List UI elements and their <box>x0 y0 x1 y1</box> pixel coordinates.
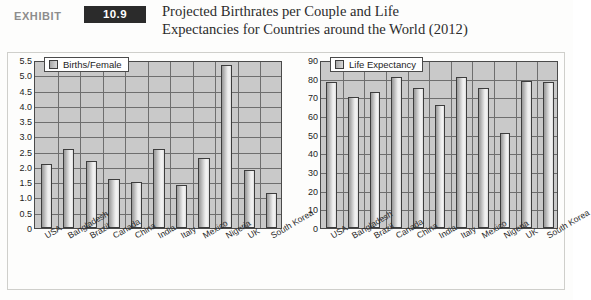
legend-label-births: Births/Female <box>63 59 122 70</box>
gridline-vertical <box>408 62 409 228</box>
y-tick-life-expectancy-60: 60 <box>308 112 318 122</box>
gridline-horizontal <box>35 107 281 108</box>
y-tick-births-4-0: 4.0 <box>19 102 32 112</box>
bar-births-canada <box>108 179 119 228</box>
gridline-vertical <box>343 62 344 228</box>
bar-births-nigeria <box>221 65 232 228</box>
gridline-vertical <box>537 62 538 228</box>
bar-life-expectancy-usa <box>326 82 337 228</box>
gridline-vertical <box>148 62 149 228</box>
y-tick-life-expectancy-30: 30 <box>308 168 318 178</box>
bar-births-south-korea <box>266 193 277 228</box>
gridline-vertical <box>58 62 59 228</box>
y-tick-life-expectancy-90: 90 <box>308 56 318 66</box>
y-tick-life-expectancy-20: 20 <box>308 187 318 197</box>
bar-births-italy <box>176 185 187 228</box>
bar-life-expectancy-bangladesh <box>348 97 359 228</box>
bar-births-usa <box>41 164 52 228</box>
y-tick-births-1-0: 1.0 <box>19 193 32 203</box>
gridline-vertical <box>170 62 171 228</box>
plot-area-life-expectancy <box>320 61 558 229</box>
bar-life-expectancy-brazil <box>370 92 381 228</box>
plot-wrapper-life-expectancy: 0102030405060708090Life ExpectancyUSABan… <box>294 53 566 291</box>
y-tick-births-2-0: 2.0 <box>19 163 32 173</box>
gridline-vertical <box>516 62 517 228</box>
gridline-horizontal <box>35 137 281 138</box>
gridline-horizontal <box>35 76 281 77</box>
exhibit-title-line-2: Expectancies for Countries around the Wo… <box>162 21 567 39</box>
y-tick-life-expectancy-40: 40 <box>308 149 318 159</box>
legend-life-expectancy: Life Expectancy <box>330 57 423 72</box>
gridline-vertical <box>215 62 216 228</box>
charts-frame: 00.51.01.52.02.53.03.54.04.55.05.5Births… <box>7 52 565 290</box>
gridline-vertical <box>364 62 365 228</box>
gridline-vertical <box>386 62 387 228</box>
gridline-vertical <box>238 62 239 228</box>
legend-swatch-icon <box>335 60 344 69</box>
gridline-vertical <box>193 62 194 228</box>
y-tick-births-5-5: 5.5 <box>19 56 32 66</box>
exhibit-title: Projected Birthrates per Couple and Life… <box>162 3 567 38</box>
y-tick-births-3-0: 3.0 <box>19 132 32 142</box>
y-tick-life-expectancy-10: 10 <box>308 205 318 215</box>
bar-life-expectancy-south-korea <box>543 82 554 228</box>
bar-life-expectancy-china <box>413 88 424 228</box>
bar-births-india <box>153 149 164 228</box>
y-tick-births-0-5: 0.5 <box>19 209 32 219</box>
chart-panel-births: 00.51.01.52.02.53.03.54.04.55.05.5Births… <box>8 53 294 291</box>
plot-area-births <box>34 61 282 229</box>
gridline-vertical <box>494 62 495 228</box>
legend-swatch-icon <box>49 60 58 69</box>
chart-panel-life-expectancy: 0102030405060708090Life ExpectancyUSABan… <box>294 53 566 291</box>
y-tick-births-3-5: 3.5 <box>19 117 32 127</box>
legend-label-life-expectancy: Life Expectancy <box>349 59 416 70</box>
gridline-vertical <box>80 62 81 228</box>
exhibit-number-badge: 10.9 <box>84 6 146 23</box>
exhibit-title-line-1: Projected Birthrates per Couple and Life <box>162 3 567 21</box>
bar-life-expectancy-canada <box>391 77 402 228</box>
gridline-vertical <box>429 62 430 228</box>
gridline-vertical <box>103 62 104 228</box>
x-axis-labels-life-expectancy: USABangladeshBrazilCanadaChinaIndiaItaly… <box>294 232 566 292</box>
y-tick-births-5-0: 5.0 <box>19 71 32 81</box>
bar-life-expectancy-uk <box>521 81 532 228</box>
bar-births-bangladesh <box>63 149 74 228</box>
exhibit-header: EXHIBIT 10.9 Projected Birthrates per Co… <box>0 0 573 52</box>
y-tick-life-expectancy-70: 70 <box>308 93 318 103</box>
gridline-horizontal <box>35 92 281 93</box>
exhibit-label: EXHIBIT <box>14 10 62 22</box>
gridline-vertical <box>451 62 452 228</box>
bar-births-mexico <box>198 158 209 228</box>
plot-wrapper-births: 00.51.01.52.02.53.03.54.04.55.05.5Births… <box>8 53 294 291</box>
gridline-horizontal <box>35 122 281 123</box>
y-tick-life-expectancy-80: 80 <box>308 75 318 85</box>
bar-life-expectancy-nigeria <box>500 133 511 228</box>
gridline-vertical <box>125 62 126 228</box>
y-tick-life-expectancy-50: 50 <box>308 131 318 141</box>
bar-life-expectancy-mexico <box>478 88 489 228</box>
bar-life-expectancy-italy <box>456 77 467 228</box>
gridline-vertical <box>472 62 473 228</box>
y-tick-births-4-5: 4.5 <box>19 87 32 97</box>
bar-life-expectancy-india <box>435 105 446 228</box>
y-tick-births-1-5: 1.5 <box>19 178 32 188</box>
x-axis-labels-births: USABangladeshBrazilCanadaChinaIndiaItaly… <box>8 232 294 292</box>
legend-births: Births/Female <box>44 57 129 72</box>
y-tick-births-2-5: 2.5 <box>19 148 32 158</box>
gridline-vertical <box>260 62 261 228</box>
